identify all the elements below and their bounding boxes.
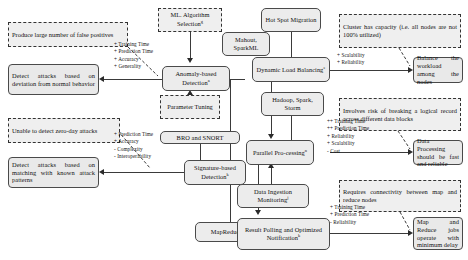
connector-signature-to-matching xyxy=(104,172,184,173)
node-hot-spot-migration-label: Hot Spot Migration xyxy=(266,16,317,24)
node-result-polling-label: Result Polling and Optimized Notificatio… xyxy=(245,226,322,242)
node-parallel-processing[interactable]: Parallel Pro-cessingn xyxy=(246,140,314,165)
goal-data-processing-fast[interactable]: Data Processing should be fast and relia… xyxy=(413,140,463,165)
belief-zero-day-text: Unable to detect zero-day attacks xyxy=(12,127,116,135)
node-dynamic-load-balancing[interactable]: Dynamic Load Balancinge xyxy=(252,57,330,82)
goal-detect-deviation[interactable]: Detect attacks based on deviation from n… xyxy=(8,64,99,95)
node-mahout-sparkml-label: Mahout, SparkML xyxy=(226,36,266,52)
belief-cluster-capacity: Cluster has capacity (i.e. all nodes are… xyxy=(339,14,461,48)
contributions-anomaly: + Training Time + Prediction Time + Accu… xyxy=(114,41,153,71)
node-anomaly-based-detection-label: Anomaly-based Detection xyxy=(175,70,216,86)
connector-dlb-to-balance xyxy=(330,70,409,71)
goal-detect-matching-text: Detect attacks based on matching with kn… xyxy=(12,161,95,184)
node-ml-algorithm-selection-label: ML. Algorithm Selection xyxy=(170,11,209,27)
arrowhead-anomaly-to-deviation xyxy=(99,76,104,82)
contributions-result-polling: + Training Time + Prediction Time - Reli… xyxy=(330,204,369,226)
contributions-signature: + Prediction Time + Accuracy - Complexit… xyxy=(114,131,153,161)
arrowhead-signature-to-matching xyxy=(99,169,104,175)
connector-backbone-right xyxy=(230,79,231,232)
node-parallel-processing-label: Parallel Pro-cessing xyxy=(253,149,305,156)
belief-zero-day: Unable to detect zero-day attacks xyxy=(8,118,120,143)
goal-map-reduce-delay-text: Map and Reduce jobs operate with minimum… xyxy=(417,218,459,249)
superscript-ml-algorithm-selection: g xyxy=(201,19,203,24)
goal-map-reduce-delay[interactable]: Map and Reduce jobs operate with minimum… xyxy=(413,217,463,250)
connector-result-to-mapreducejobs xyxy=(330,233,409,234)
belief-cluster-capacity-text: Cluster has capacity (i.e. all nodes are… xyxy=(343,23,457,39)
node-anomaly-based-detection[interactable]: Anomaly-based Detectiona xyxy=(162,66,230,91)
node-parameter-tuning[interactable]: Parameter Tuning xyxy=(160,95,220,119)
node-dynamic-load-balancing-label: Dynamic Load Balancing xyxy=(257,66,324,73)
connector-hotspot-to-dlb xyxy=(291,32,292,57)
contributions-parallel: ++ Training Time ++ Prediction Time + Re… xyxy=(327,118,369,155)
contributions-load-balancing: + Scalability + Reliability xyxy=(337,52,365,67)
goal-data-processing-fast-text: Data Processing should be fast and relia… xyxy=(417,137,459,168)
connector-hadoop-to-parallel xyxy=(291,116,292,142)
superscript-result-polling: k xyxy=(298,233,300,238)
node-hadoop-spark-storm[interactable]: Hadoop, Spark, Storm xyxy=(261,92,324,116)
superscript-parallel-processing: n xyxy=(305,148,307,153)
node-signature-based-detection-label: Signature-based Detection xyxy=(194,164,236,180)
arrowhead-ml-to-anomaly xyxy=(187,58,193,63)
goal-detect-matching[interactable]: Detect attacks based on matching with kn… xyxy=(8,157,99,188)
superscript-anomaly-detection: a xyxy=(208,78,210,83)
superscript-data-ingestion-monitoring: j xyxy=(287,195,288,200)
arrowhead-parallel-to-result xyxy=(255,210,261,215)
belief-false-positives-text: Produce large number of false positives xyxy=(12,31,124,39)
connector-ingestion-to-parallel xyxy=(271,168,272,184)
node-data-ingestion-monitoring[interactable]: Data Ingestion Monitoringj xyxy=(237,184,309,208)
belief-false-positives: Produce large number of false positives xyxy=(8,22,128,47)
connector-ml-to-anomaly xyxy=(190,32,191,59)
node-ml-algorithm-selection[interactable]: ML. Algorithm Selectiong xyxy=(158,8,222,32)
node-hadoop-spark-storm-label: Hadoop, Spark, Storm xyxy=(265,96,320,112)
diagram-canvas: Produce large number of false positives … xyxy=(0,0,468,260)
node-hot-spot-migration[interactable]: Hot Spot Migration xyxy=(261,8,321,32)
goal-detect-deviation-text: Detect attacks based on deviation from n… xyxy=(12,72,95,88)
node-signature-based-detection[interactable]: Signature-based Detectionk xyxy=(184,160,246,185)
node-mahout-sparkml[interactable]: Mahout, SparkML xyxy=(222,32,270,56)
goal-balance-workload-text: Balance the workload among the nodes xyxy=(417,54,459,85)
node-parameter-tuning-label: Parameter Tuning xyxy=(164,103,216,111)
node-result-polling[interactable]: Result Polling and Optimized Notificatio… xyxy=(237,218,330,250)
node-bro-and-snort-label: BRO and SNORT xyxy=(177,134,224,142)
connector-anomaly-to-deviation xyxy=(104,79,162,80)
superscript-dynamic-load-balancing: e xyxy=(323,65,325,70)
superscript-signature-detection: k xyxy=(227,172,229,177)
goal-balance-workload[interactable]: Balance the workload among the nodes xyxy=(413,57,463,83)
belief-connectivity-required-text: Requires connectivity between map and re… xyxy=(343,188,457,204)
arrowhead-dlb-to-parallel xyxy=(268,134,274,139)
node-bro-and-snort[interactable]: BRO and SNORT xyxy=(160,131,240,144)
